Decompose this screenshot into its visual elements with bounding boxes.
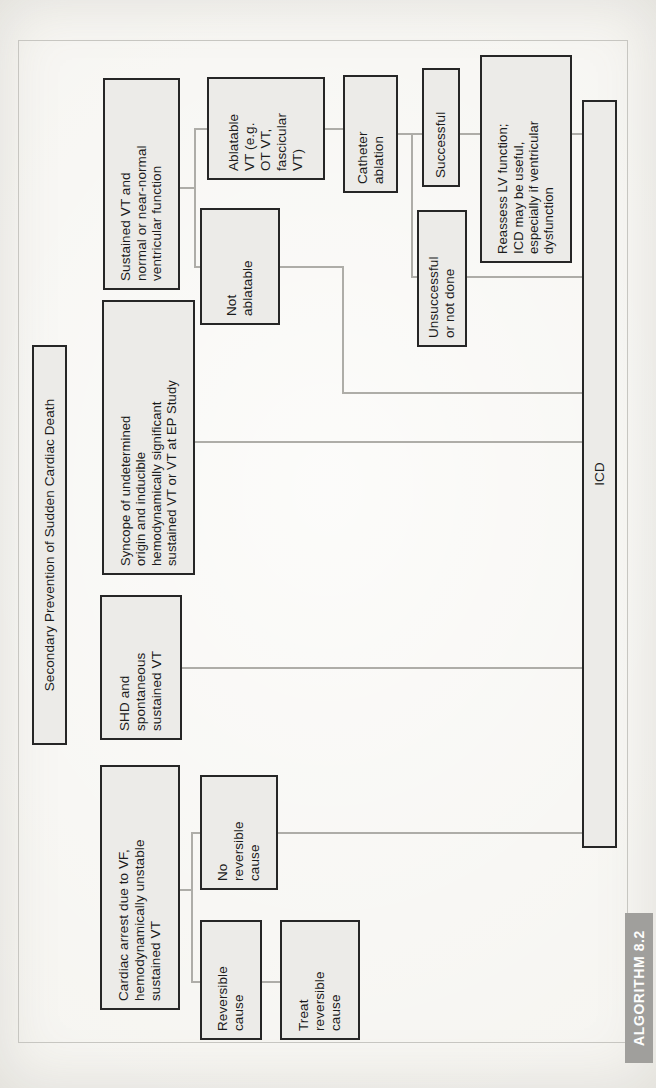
node-text: Successful — [433, 112, 449, 178]
title-text: Secondary Prevention of Sudden Cardiac D… — [42, 399, 58, 692]
node-text: Treat reversible cause — [296, 971, 344, 1031]
edge-reversible-to-treat — [262, 981, 280, 983]
node-text: Reassess LV function; ICD may be useful,… — [495, 121, 556, 254]
node-text: No reversible cause — [215, 821, 263, 881]
node-text: Ablatable VT (e.g. OT VT, fascicular VT) — [226, 113, 306, 171]
node-text: SHD and spontaneous sustained VT — [117, 651, 165, 731]
node-text: Cardiac arrest due to VF, hemodynamicall… — [116, 840, 164, 1002]
node-catheter-ablation: Catheter ablation — [343, 75, 398, 193]
edge-successful-to-reassess — [460, 133, 480, 135]
node-text: Unsuccessful or not done — [426, 257, 458, 338]
node-text: Catheter ablation — [355, 131, 387, 184]
node-treat-reversible: Treat reversible cause — [280, 920, 360, 1040]
flowchart-canvas: Secondary Prevention of Sudden Cardiac D… — [0, 0, 656, 1088]
node-text: Syncope of undetermined origin and induc… — [118, 380, 179, 566]
node-unsuccessful: Unsuccessful or not done — [417, 210, 467, 347]
edge-reassess-to-icd — [572, 133, 582, 135]
edge-catheter-trunk — [398, 133, 422, 135]
edge-syncope-to-icd — [195, 441, 582, 443]
edge-catheter-bracket — [411, 133, 413, 278]
edge-not-ablatable-to-icd — [342, 392, 582, 394]
edge-to-unsuccessful — [411, 276, 417, 278]
algorithm-number-text: ALGORITHM 8.2 — [631, 930, 647, 1046]
node-reversible-cause: Reversible cause — [200, 920, 262, 1040]
node-reassess: Reassess LV function; ICD may be useful,… — [480, 55, 572, 263]
edge-unsuccessful-to-icd — [467, 276, 582, 278]
node-text: ICD — [592, 462, 608, 486]
node-not-ablatable: Not ablatable — [200, 208, 280, 325]
edge-not-ablatable-down — [280, 266, 344, 268]
scanned-page: Secondary Prevention of Sudden Cardiac D… — [0, 0, 656, 1088]
node-cardiac-arrest: Cardiac arrest due to VF, hemodynamicall… — [100, 765, 180, 1010]
edge-sustained-vt-bracket — [194, 128, 196, 268]
edge-to-no-reversible — [191, 832, 200, 834]
edge-to-reversible — [191, 981, 200, 983]
node-text: Reversible cause — [215, 966, 247, 1031]
algorithm-number-tab: ALGORITHM 8.2 — [625, 913, 653, 1063]
edge-not-ablatable-jog — [342, 266, 344, 394]
edge-shd-to-icd — [182, 667, 582, 669]
node-sustained-vt: Sustained VT and normal or near-normal v… — [103, 78, 180, 290]
node-title: Secondary Prevention of Sudden Cardiac D… — [32, 345, 67, 745]
node-text: Not ablatable — [224, 260, 256, 316]
edge-ablatable-to-catheter — [325, 128, 343, 130]
edge-no-reversible-to-icd — [278, 832, 582, 834]
node-syncope: Syncope of undetermined origin and induc… — [102, 300, 195, 575]
node-successful: Successful — [422, 68, 460, 187]
node-icd: ICD — [582, 100, 617, 848]
node-ablatable: Ablatable VT (e.g. OT VT, fascicular VT) — [207, 77, 325, 180]
node-text: Sustained VT and normal or near-normal v… — [118, 145, 166, 281]
node-no-reversible: No reversible cause — [200, 775, 278, 890]
edge-to-not-ablatable — [194, 266, 200, 268]
node-shd: SHD and spontaneous sustained VT — [100, 595, 182, 740]
edge-cardiac-arrest-bracket — [191, 832, 193, 983]
edge-to-ablatable — [194, 128, 207, 130]
